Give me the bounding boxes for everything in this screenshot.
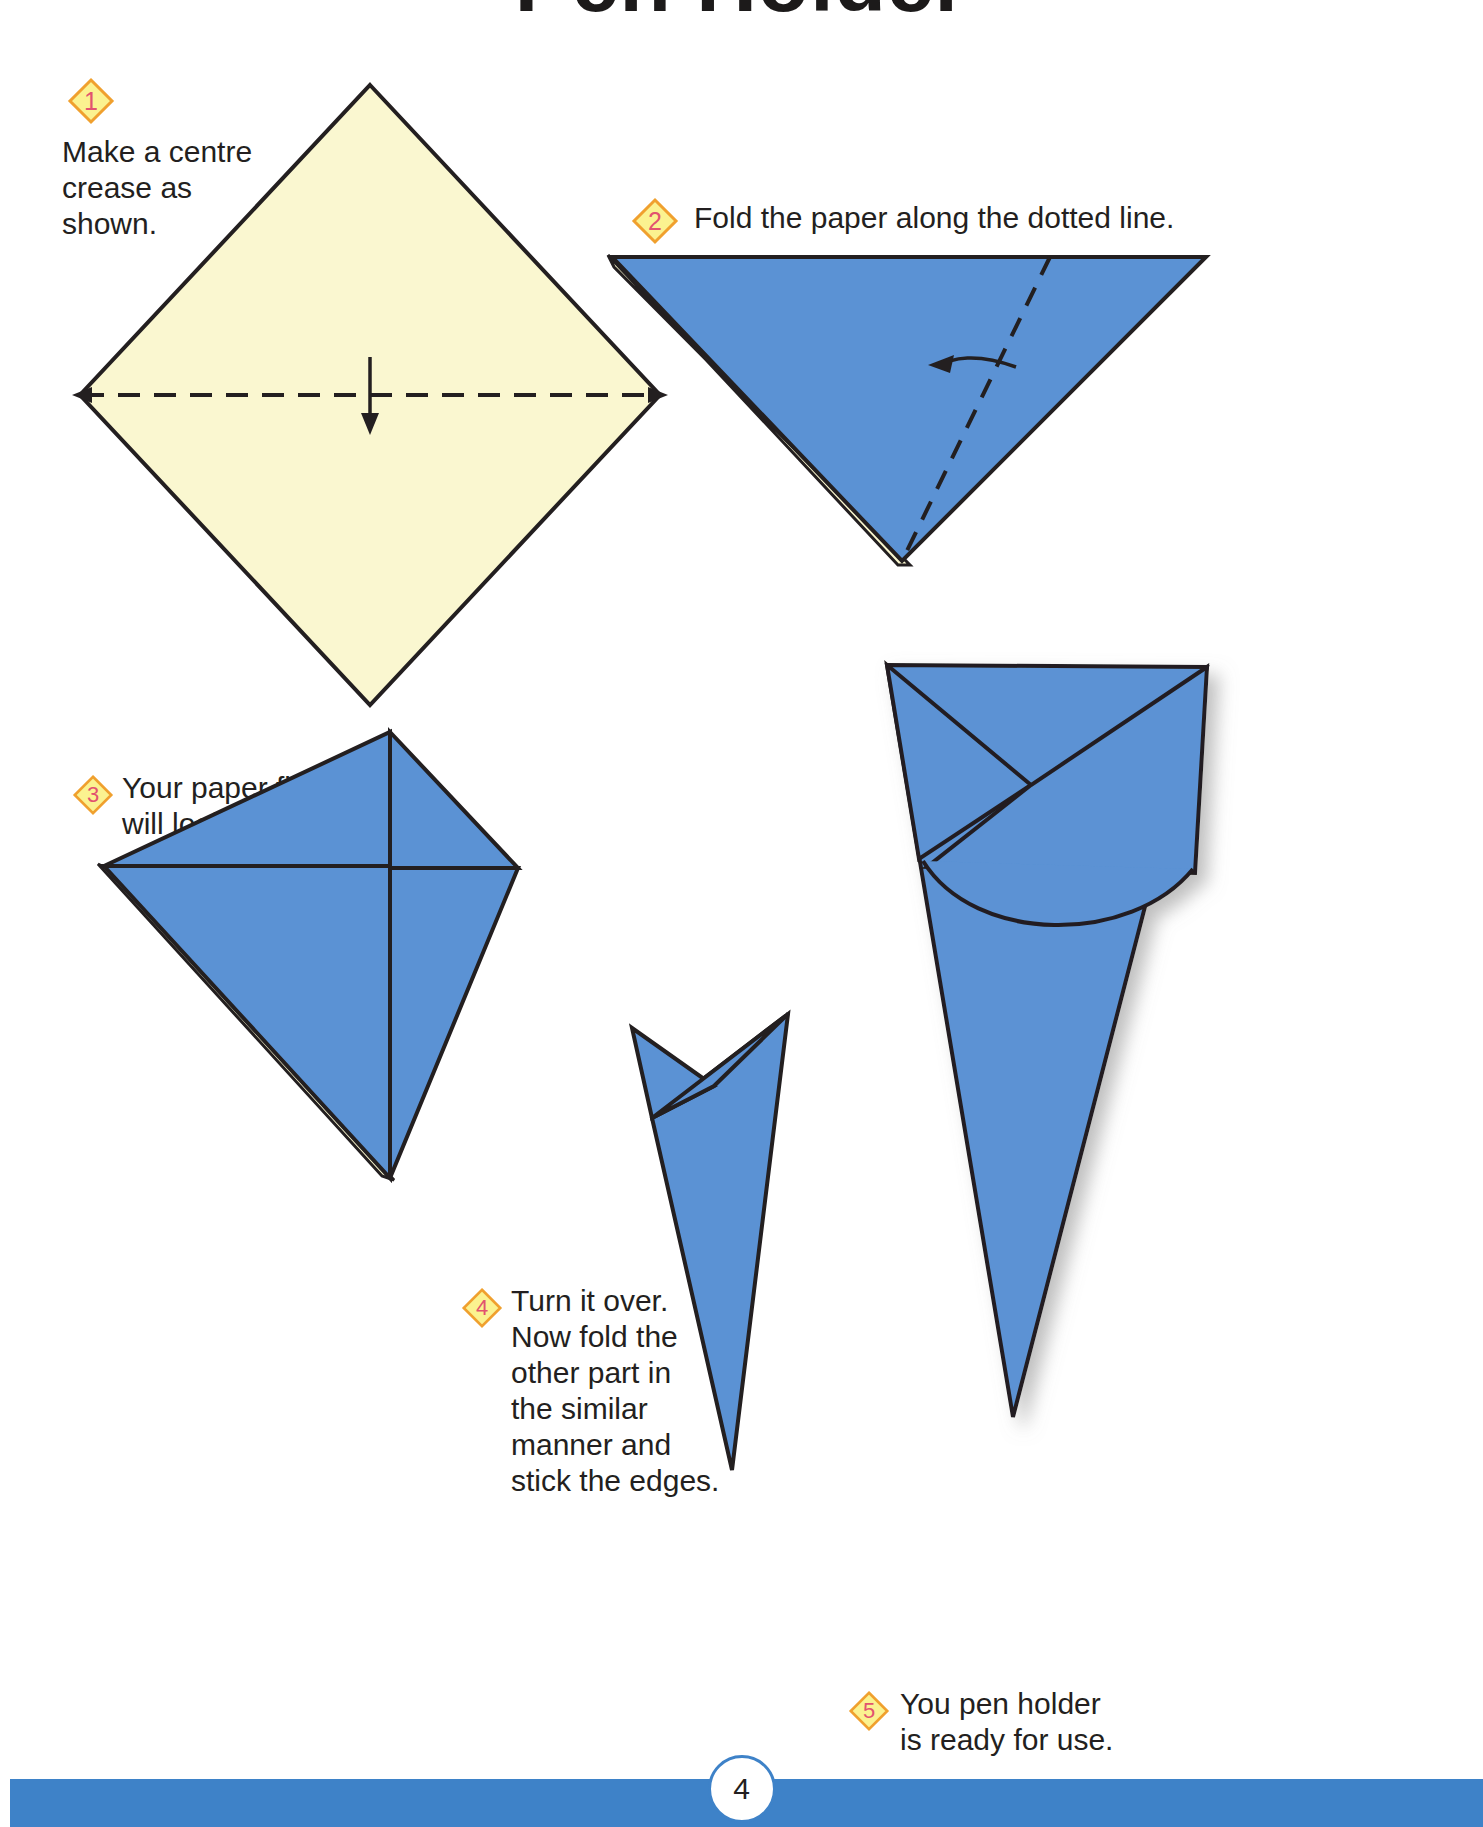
- crease-arrow-left: [72, 387, 92, 403]
- step-5-badge: 5: [849, 1691, 889, 1731]
- origami-instruction-page: Pen Holder 1 Make a centre crease as sho…: [0, 0, 1483, 1827]
- blue-lower-triangle: [104, 866, 390, 1178]
- footer-left-edge: [0, 1779, 10, 1827]
- step-5-text: You pen holder is ready for use.: [900, 1686, 1230, 1758]
- step-5-number: 5: [849, 1691, 889, 1731]
- page-number: 4: [708, 1755, 776, 1823]
- blue-right-wing: [390, 732, 518, 868]
- step-2-text: Fold the paper along the dotted line.: [694, 200, 1414, 236]
- step-5-figure: [855, 645, 1235, 1445]
- step-2-number: 2: [632, 198, 678, 244]
- blue-right-lower: [390, 868, 518, 1178]
- page-title: Pen Holder: [0, 0, 1483, 31]
- step-4-badge: 4: [462, 1288, 502, 1328]
- blue-triangle: [612, 257, 1206, 561]
- step-4-figure: [622, 1008, 802, 1478]
- step-1-figure: [60, 75, 680, 715]
- blue-upper-flap: [104, 732, 390, 866]
- step-4-number: 4: [462, 1288, 502, 1328]
- step-2-badge: 2: [632, 198, 678, 244]
- step-3-figure: [90, 728, 530, 1188]
- step-2-figure: [598, 243, 1218, 583]
